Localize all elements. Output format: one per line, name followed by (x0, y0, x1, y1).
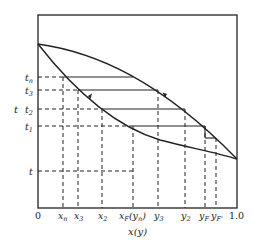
svg-text:t: t (29, 166, 33, 177)
bubble-point-curve (38, 44, 237, 159)
dew-point-curve (38, 44, 237, 159)
x-axis-label: x(y) (128, 226, 147, 237)
y-tick-labels: tn t3 t2 t1 t (25, 72, 33, 177)
svg-text:x3: x3 (74, 210, 84, 223)
dashed-horizontal-guides (38, 77, 133, 171)
svg-text:0: 0 (35, 210, 41, 221)
svg-text:y2: y2 (180, 210, 191, 223)
svg-text:t1: t1 (25, 121, 33, 134)
svg-text:xF(yn): xF(yn) (119, 210, 146, 223)
svg-text:x2: x2 (98, 210, 108, 223)
svg-text:1.0: 1.0 (229, 210, 244, 221)
svg-text:yF: yF (198, 210, 209, 223)
svg-text:t2: t2 (25, 104, 33, 117)
phase-diagram: t tn t3 t2 t1 t 0 xn x3 x2 xF(yn) y3 y2 … (0, 0, 253, 250)
svg-text:y3: y3 (153, 210, 164, 223)
svg-text:tn: tn (25, 72, 33, 85)
y-axis-label: t (14, 104, 19, 115)
tie-lines (63, 77, 216, 138)
svg-text:t3: t3 (25, 85, 33, 98)
x-tick-labels: 0 xn x3 x2 xF(yn) y3 y2 yF yF' 1.0 (35, 210, 244, 223)
plot-frame (38, 15, 237, 208)
svg-text:yF': yF' (210, 210, 223, 223)
svg-text:xn: xn (58, 210, 68, 223)
